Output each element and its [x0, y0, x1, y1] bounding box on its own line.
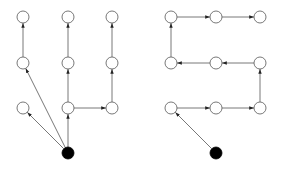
- node-R6: [165, 57, 177, 69]
- left-tree-graph: [17, 11, 118, 159]
- node-R5: [210, 57, 222, 69]
- node-L1: [17, 102, 29, 114]
- node-L2: [17, 57, 29, 69]
- node-R3: [254, 102, 266, 114]
- node-L6: [62, 11, 74, 23]
- diagram-canvas: [0, 0, 281, 169]
- node-L9: [106, 11, 118, 23]
- node-L7: [106, 102, 118, 114]
- edge-L0-L1: [27, 112, 64, 149]
- root-node: [210, 147, 222, 159]
- node-L3: [17, 11, 29, 23]
- node-R9: [254, 11, 266, 23]
- right-path-graph: [165, 11, 266, 159]
- node-R7: [165, 11, 177, 23]
- node-L8: [106, 57, 118, 69]
- root-node: [62, 147, 74, 159]
- node-R1: [165, 102, 177, 114]
- edge-L0-L2: [26, 68, 66, 147]
- edge-R0-R1: [175, 112, 212, 149]
- node-R8: [210, 11, 222, 23]
- node-L5: [62, 57, 74, 69]
- node-R2: [210, 102, 222, 114]
- node-R4: [254, 57, 266, 69]
- node-L4: [62, 102, 74, 114]
